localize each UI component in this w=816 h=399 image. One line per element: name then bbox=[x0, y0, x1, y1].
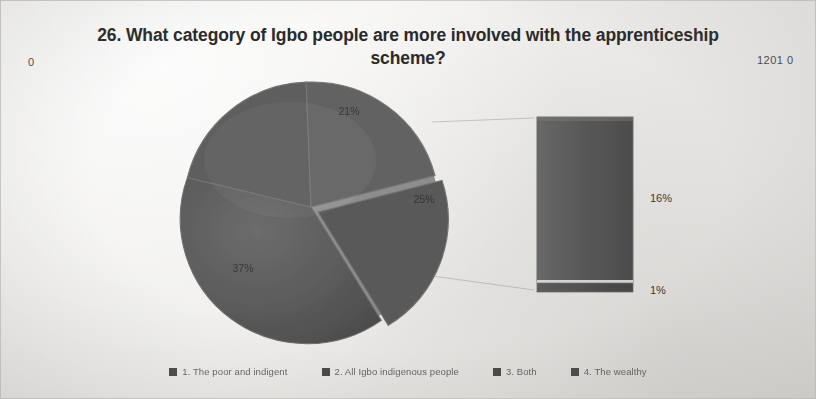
legend-label: 4. The wealthy bbox=[584, 366, 647, 377]
bar-label-1: 1% bbox=[650, 284, 666, 296]
legend-item-both[interactable]: 3. Both bbox=[493, 366, 537, 377]
legend-label: 1. The poor and indigent bbox=[182, 366, 287, 377]
legend-swatch-icon bbox=[493, 368, 501, 376]
bar-group bbox=[537, 117, 633, 292]
pie-label-poor-indigent: 37% bbox=[232, 262, 253, 274]
pie-group bbox=[180, 82, 448, 344]
bar-segment-1 bbox=[537, 283, 633, 292]
legend-swatch-icon bbox=[169, 368, 177, 376]
legend-label: 2. All Igbo indigenous people bbox=[335, 366, 459, 377]
legend-swatch-icon bbox=[571, 368, 579, 376]
chart-page: 0 1201 0 26. What category of Igbo peopl… bbox=[0, 0, 816, 399]
legend-item-all-igbo[interactable]: 2. All Igbo indigenous people bbox=[322, 366, 459, 377]
chart-title: 26. What category of Igbo people are mor… bbox=[78, 24, 738, 70]
chart-legend: 1. The poor and indigent 2. All Igbo ind… bbox=[0, 366, 816, 377]
pie-label-all-igbo: 21% bbox=[338, 105, 359, 117]
page-number-right: 1201 0 bbox=[757, 54, 794, 66]
legend-label: 3. Both bbox=[506, 366, 537, 377]
legend-item-poor-indigent[interactable]: 1. The poor and indigent bbox=[169, 366, 287, 377]
pie-label-both: 25% bbox=[413, 193, 434, 205]
page-number-left: 0 bbox=[28, 56, 35, 68]
bar-label-16: 16% bbox=[650, 192, 672, 204]
legend-swatch-icon bbox=[322, 368, 330, 376]
legend-item-wealthy[interactable]: 4. The wealthy bbox=[571, 366, 647, 377]
bar-segment-16 bbox=[537, 117, 633, 282]
